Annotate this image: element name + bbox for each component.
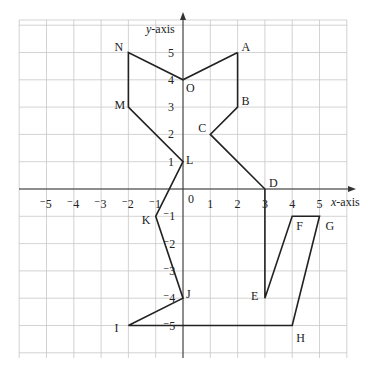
y-tick-label: 5 <box>168 46 174 60</box>
y-tick-label: 1 <box>168 155 174 169</box>
x-tick-label: 1 <box>207 197 213 211</box>
y-tick-label: 3 <box>168 100 174 114</box>
point-label-G: G <box>326 219 335 233</box>
coordinate-plane: x-axis y-axis 0 ⁻5⁻4⁻3⁻2⁻11234554321⁻1⁻2… <box>0 0 381 375</box>
point-label-L: L <box>186 153 193 167</box>
x-tick-label: ⁻5 <box>40 197 52 211</box>
point-label-B: B <box>242 94 250 108</box>
x-tick-label: ⁻2 <box>121 197 133 211</box>
x-tick-label: 2 <box>235 197 241 211</box>
point-label-J: J <box>186 287 191 301</box>
x-tick-label: ⁻3 <box>94 197 106 211</box>
origin-label: 0 <box>188 192 194 206</box>
point-label-C: C <box>198 121 206 135</box>
y-tick-label: 2 <box>168 127 174 141</box>
axes: x-axis y-axis 0 <box>19 12 360 358</box>
point-label-O: O <box>186 81 195 95</box>
y-tick-label: ⁻1 <box>163 209 175 223</box>
point-label-H: H <box>296 331 305 345</box>
point-label-E: E <box>251 289 258 303</box>
point-labels: ABCDEFGHIJKLMNO <box>114 40 334 345</box>
x-axis-label: x-axis <box>330 195 360 209</box>
point-label-M: M <box>114 98 125 112</box>
x-axis-arrow-icon <box>348 186 356 192</box>
point-label-A: A <box>242 40 251 54</box>
y-axis-label: y-axis <box>145 22 175 36</box>
x-tick-label: ⁻4 <box>67 197 79 211</box>
point-label-K: K <box>142 213 151 227</box>
point-label-N: N <box>114 40 123 54</box>
point-label-D: D <box>269 176 278 190</box>
x-tick-label: 5 <box>317 197 323 211</box>
y-axis-arrow-icon <box>180 12 186 20</box>
point-label-I: I <box>114 321 118 335</box>
x-tick-label: 4 <box>289 197 295 211</box>
point-label-F: F <box>296 219 303 233</box>
